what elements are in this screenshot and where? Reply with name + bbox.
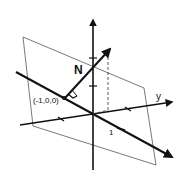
x-tick xyxy=(117,128,125,130)
normal-label: N xyxy=(74,63,83,77)
tick-one-label: 1 xyxy=(109,128,114,137)
y-axis-label: y xyxy=(156,91,161,102)
point-dot xyxy=(62,96,66,100)
diagram-canvas: N (-1,0,0) y 1 xyxy=(0,0,181,182)
point-label: (-1,0,0) xyxy=(33,96,59,105)
